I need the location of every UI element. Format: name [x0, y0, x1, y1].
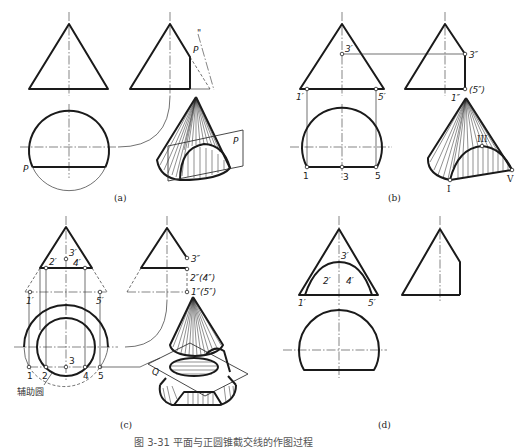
point-1-front: 1′: [26, 296, 34, 306]
point-3-front: 3′: [69, 248, 77, 258]
point-3-side: 3″: [191, 254, 201, 264]
point-4-front: 4′: [346, 276, 354, 286]
point-1-top: 1: [27, 371, 33, 381]
panel-c-top-view: 1 2 3 4 5 辅助圆: [14, 305, 160, 397]
panel-b: 3′ 1′ 5′ 3″ (5″) 1″ 1 3 5: [290, 12, 514, 203]
point-5-side: (5″): [469, 85, 485, 95]
point-3-front: 3′: [341, 251, 349, 261]
point-3-top: 3: [343, 172, 349, 182]
panel-d-side-view: [402, 216, 460, 303]
figure-caption: 图 3-31 平面与正圆锥截交线的作图过程: [134, 436, 313, 448]
point-2-front: 2′: [323, 276, 331, 286]
point-1-front: 1′: [296, 92, 304, 102]
point-1-top: 1: [303, 171, 309, 181]
plane-p-label-3d: P: [233, 136, 239, 146]
auxiliary-circle-label: 辅助圆: [17, 386, 44, 397]
panel-a: P " P: [20, 12, 243, 203]
plane-p-label-top: P: [23, 164, 29, 174]
point-5-front: 5′: [368, 298, 376, 308]
point-1-front: 1′: [298, 298, 306, 308]
panel-a-side-view: P ": [130, 12, 214, 96]
point-2-4-side: 2″(4″): [190, 273, 215, 283]
point-3-top: 3: [69, 356, 75, 366]
point-1-side: 1″: [451, 93, 461, 103]
point-4-top: 4: [83, 371, 89, 381]
panel-d: 3′ 2′ 4′ 1′ 5′ (d): [283, 216, 460, 430]
panel-c: 3′ 2′ 4′ 1′ 5′ 3″ 2″(4″) 1″(5″): [14, 216, 248, 430]
point-5-top: 5: [375, 171, 381, 181]
plane-p-label-side: P: [193, 45, 199, 55]
point-5-top: 5: [98, 371, 104, 381]
point-4-front: 4′: [73, 258, 81, 268]
panel-a-top-view: P: [20, 96, 170, 191]
panel-b-pictorial: III I V: [428, 98, 514, 194]
panel-d-front-view: 3′ 2′ 4′ 1′ 5′: [298, 216, 378, 308]
point-5-front: 5′: [96, 296, 104, 306]
panel-c-side-view: 3″ 2″(4″) 1″(5″): [125, 216, 216, 347]
point-2-top: 2: [42, 371, 48, 381]
panel-d-top-view: [283, 308, 387, 378]
roman-V-label: V: [506, 174, 514, 184]
point-3-front: 3′: [345, 44, 353, 54]
panel-b-label: (b): [388, 193, 401, 203]
panel-c-pictorial: Q: [148, 297, 248, 405]
point-5-front: 5′: [378, 92, 386, 102]
panel-b-side-view: 3″ (5″) 1″: [405, 12, 485, 103]
double-prime-mark: ": [197, 28, 201, 38]
roman-III-label: III: [477, 134, 488, 144]
cone-section-figure: P " P: [0, 0, 518, 448]
panel-a-label: (a): [114, 193, 126, 203]
plane-q-label: Q: [152, 367, 159, 377]
panel-a-pictorial: P: [157, 97, 243, 181]
panel-a-front-view: [29, 12, 108, 96]
panel-c-label: (c): [120, 420, 132, 430]
panel-d-label: (d): [378, 420, 391, 430]
roman-I-label: I: [447, 184, 451, 194]
panel-b-top-view: 1 3 5: [290, 104, 392, 182]
point-2-front: 2′: [49, 257, 57, 267]
point-1-5-side: 1″(5″): [191, 287, 216, 297]
point-3-side: 3″: [469, 50, 479, 60]
